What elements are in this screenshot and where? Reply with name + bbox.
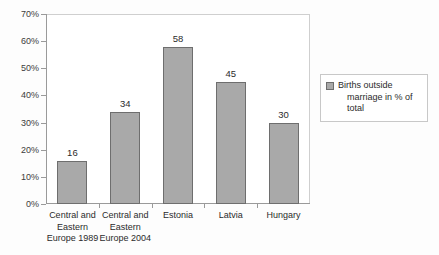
y-axis-tick [41,204,46,205]
bar[interactable] [163,47,193,204]
chart-page: 0%10%20%30%40%50%60%70% 1634584530 Centr… [0,0,439,255]
x-axis-tick [204,204,205,208]
x-axis-tick [99,204,100,208]
x-axis-tick [257,204,258,208]
bar[interactable] [110,112,140,204]
y-axis-tick-label: 40% [1,91,39,100]
y-axis-tick-label: 10% [1,173,39,182]
bar-value-label: 34 [120,99,131,109]
legend-label-line2: marriage in % of total [338,92,423,115]
x-axis-category-label: Central and Eastern Europe 1989 [46,210,99,245]
bar[interactable] [216,82,246,204]
y-axis-tick-label: 0% [1,200,39,209]
chart-legend: Births outside marriage in % of total [320,74,428,122]
x-axis-category-label: Latvia [204,210,257,222]
y-axis-tick-label: 50% [1,64,39,73]
y-axis-tick-label: 20% [1,146,39,155]
legend-label: Births outside marriage in % of total [338,80,423,115]
x-axis-category-label: Hungary [257,210,310,222]
bar-slot: 45 [204,14,257,204]
bar-slot: 58 [152,14,205,204]
x-axis-category-label: Estonia [152,210,205,222]
legend-label-line1: Births outside [338,80,393,90]
y-axis-tick-label: 30% [1,119,39,128]
y-axis-tick-label: 60% [1,37,39,46]
bar-value-label: 16 [67,148,78,158]
bar[interactable] [57,161,87,204]
x-axis-category-label: Central and Eastern Europe 2004 [99,210,152,245]
x-axis-tick [152,204,153,208]
bar-value-label: 45 [225,69,236,79]
y-axis-tick-label: 70% [1,10,39,19]
legend-swatch-icon [326,82,334,90]
bar-slot: 16 [46,14,99,204]
bar[interactable] [269,123,299,204]
bar-slot: 30 [257,14,310,204]
bar-slot: 34 [99,14,152,204]
bar-value-label: 58 [173,34,184,44]
bar-value-label: 30 [278,110,289,120]
